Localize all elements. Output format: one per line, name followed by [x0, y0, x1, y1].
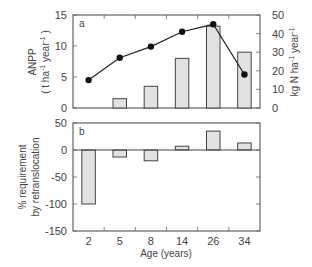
b-tick-label: 0 — [61, 144, 67, 156]
b-ylabel-line2: by retranslocation — [30, 138, 41, 217]
anpp-bar — [144, 86, 158, 108]
left-tick-label: 0 — [61, 102, 67, 114]
right-tick-label: 10 — [272, 83, 284, 95]
x-tick-label: 8 — [148, 235, 154, 247]
nitrogen-point — [148, 43, 154, 49]
retranslocation-bars — [82, 131, 251, 204]
anpp-units: ( t ha-1 year-1 ) — [39, 30, 51, 94]
right-tick-label: 50 — [272, 9, 284, 21]
nitrogen-axis-title: kg N ha-1 year-1 — [288, 27, 300, 96]
panel-a-label: a — [79, 18, 85, 29]
right-tick-label: 20 — [272, 65, 284, 77]
anpp-bar — [207, 26, 221, 108]
panel-b-ticks: -150-100-50050258142634 — [45, 117, 260, 247]
retranslocation-axis-title: % requirement by retranslocation — [17, 138, 41, 217]
left-tick-label: 5 — [61, 71, 67, 83]
x-tick-label: 26 — [207, 235, 219, 247]
b-tick-label: -50 — [51, 171, 67, 183]
left-tick-label: 10 — [55, 40, 67, 52]
nitrogen-point — [85, 77, 91, 83]
x-tick-label: 14 — [176, 235, 188, 247]
retranslocation-bar — [207, 131, 221, 150]
nitrogen-point — [179, 29, 185, 35]
b-tick-label: -100 — [45, 198, 67, 210]
nitrogen-line — [85, 21, 247, 83]
nitrogen-point — [117, 55, 123, 61]
left-tick-label: 15 — [55, 9, 67, 21]
retranslocation-bar — [113, 150, 127, 157]
anpp-bars — [113, 26, 251, 108]
chart-figure: a 05101501020304050 ANPP ( t ha-1 year-1… — [0, 0, 312, 267]
panel-a: a 05101501020304050 ANPP ( t ha-1 year-1… — [27, 9, 300, 114]
anpp-bar — [238, 52, 252, 108]
panel-a-frame — [73, 15, 260, 108]
panel-b-frame — [73, 123, 260, 231]
b-ylabel-line1: % requirement — [17, 144, 28, 209]
retranslocation-bar — [82, 150, 96, 204]
anpp-label: ANPP — [27, 48, 38, 76]
x-tick-label: 34 — [238, 235, 250, 247]
b-tick-label: -150 — [45, 225, 67, 237]
retranslocation-bar — [175, 146, 189, 150]
x-tick-label: 2 — [86, 235, 92, 247]
retranslocation-bar — [238, 143, 252, 150]
nitrogen-point — [241, 71, 247, 77]
panel-b-label: b — [79, 126, 85, 137]
right-tick-label: 40 — [272, 28, 284, 40]
anpp-axis-title: ANPP ( t ha-1 year-1 ) — [27, 30, 51, 94]
right-tick-label: 30 — [272, 46, 284, 58]
b-tick-label: 50 — [55, 117, 67, 129]
x-axis-title: Age (years) — [140, 248, 192, 259]
nitrogen-point — [210, 21, 216, 27]
x-tick-label: 5 — [117, 235, 123, 247]
right-tick-label: 0 — [272, 102, 278, 114]
panel-b: b -150-100-50050258142634 % requirement … — [17, 117, 260, 259]
retranslocation-bar — [144, 150, 158, 161]
anpp-bar — [175, 58, 189, 108]
nitrogen-units: kg N ha-1 year-1 — [288, 27, 300, 96]
anpp-bar — [113, 99, 127, 108]
nitrogen-polyline — [89, 24, 245, 80]
